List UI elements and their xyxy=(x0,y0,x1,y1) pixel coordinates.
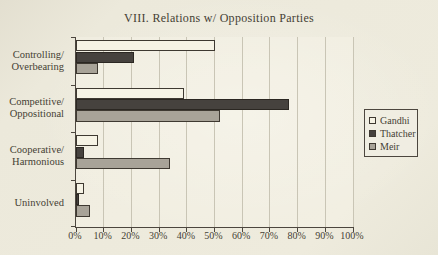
category-axis-labels: Controlling/OverbearingCompetitive/Oppos… xyxy=(0,37,70,227)
percent-tick-label-40: 40% xyxy=(177,230,195,241)
category-label-cooperative-harmonious: Cooperative/Harmonious xyxy=(0,144,64,168)
gridline xyxy=(297,37,298,227)
bar-gandhi-controlling-overbearing xyxy=(76,40,215,51)
chart-title: VIII. Relations w/ Opposition Parties xyxy=(0,11,438,26)
bar-thatcher-competitive-oppositional xyxy=(76,99,289,110)
percent-tick-label-90: 90% xyxy=(315,230,333,241)
category-axis-tick xyxy=(71,132,76,133)
legend-swatch-meir-icon xyxy=(369,143,376,150)
percent-axis-labels: 0%10%20%30%40%50%60%70%80%90%100% xyxy=(0,230,438,244)
legend: GandhiThatcherMeir xyxy=(364,109,418,157)
gridline xyxy=(242,37,243,227)
gridline xyxy=(103,37,104,227)
gridline xyxy=(325,37,326,227)
gridline xyxy=(269,37,270,227)
category-axis-tick xyxy=(71,180,76,181)
bar-thatcher-cooperative-harmonious xyxy=(76,147,84,158)
bar-thatcher-uninvolved xyxy=(76,194,79,205)
bar-meir-controlling-overbearing xyxy=(76,63,98,74)
category-axis-tick xyxy=(71,85,76,86)
gridline xyxy=(353,37,354,227)
percent-tick-label-80: 80% xyxy=(287,230,305,241)
plot-area xyxy=(75,37,353,228)
category-label-uninvolved: Uninvolved xyxy=(0,197,64,209)
percent-tick-label-60: 60% xyxy=(232,230,250,241)
legend-label-meir: Meir xyxy=(380,141,399,152)
category-label-competitive-oppositional: Competitive/Oppositional xyxy=(0,96,64,120)
gridline xyxy=(159,37,160,227)
legend-swatch-gandhi-icon xyxy=(369,117,376,124)
bar-gandhi-competitive-oppositional xyxy=(76,88,184,99)
percent-tick-label-70: 70% xyxy=(260,230,278,241)
bar-thatcher-controlling-overbearing xyxy=(76,52,134,63)
bar-gandhi-cooperative-harmonious xyxy=(76,135,98,146)
legend-label-thatcher: Thatcher xyxy=(380,128,416,139)
bar-meir-competitive-oppositional xyxy=(76,110,220,121)
legend-label-gandhi: Gandhi xyxy=(380,115,409,126)
percent-tick-label-50: 50% xyxy=(204,230,222,241)
percent-tick-label-10: 10% xyxy=(94,230,112,241)
percent-tick-label-20: 20% xyxy=(121,230,139,241)
gridline xyxy=(214,37,215,227)
legend-entry-gandhi: Gandhi xyxy=(369,114,413,127)
legend-entry-meir: Meir xyxy=(369,140,413,153)
bar-meir-cooperative-harmonious xyxy=(76,158,170,169)
scanned-book-page: VIII. Relations w/ Opposition Parties Co… xyxy=(0,0,438,255)
category-label-controlling-overbearing: Controlling/Overbearing xyxy=(0,49,64,73)
percent-tick-label-100: 100% xyxy=(340,230,363,241)
gridline xyxy=(186,37,187,227)
bar-gandhi-uninvolved xyxy=(76,183,84,194)
percent-tick-label-0: 0% xyxy=(68,230,81,241)
legend-swatch-thatcher-icon xyxy=(369,130,376,137)
bar-meir-uninvolved xyxy=(76,205,90,216)
category-axis-tick xyxy=(71,37,76,38)
gridline xyxy=(131,37,132,227)
legend-entry-thatcher: Thatcher xyxy=(369,127,413,140)
percent-tick-label-30: 30% xyxy=(149,230,167,241)
